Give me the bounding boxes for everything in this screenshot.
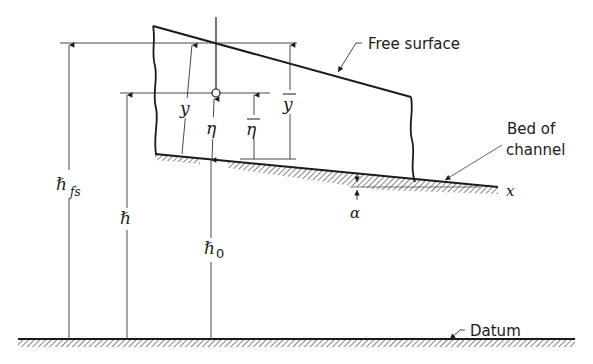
datum-line [18,339,575,347]
datum-leader [450,330,465,339]
datum-hatching [18,339,575,347]
datum-label: Datum [470,322,521,340]
bed-of-channel-label-line2: channel [506,141,565,159]
x-axis-label: x [506,182,515,200]
svg-text:ℏ: ℏ [56,174,67,194]
y-label: y [179,98,190,118]
bed-hatching-right [228,161,498,194]
free-surface-leader [338,43,362,72]
svg-text:η: η [246,119,257,139]
bed-of-channel-leader [445,145,502,180]
free-surface-label: Free surface [368,35,460,53]
centroid-marker [212,89,220,97]
h-label: ℏ [120,208,131,228]
left-section-boundary [153,26,157,154]
right-section-boundary [411,97,415,182]
svg-text:y: y [282,94,293,114]
eta-label: η [206,118,217,138]
diagram-canvas: Free surface Bed of channel Datum x α y … [0,0,593,364]
svg-text:fs: fs [69,185,81,199]
bed-of-channel-label-line1: Bed of [507,120,556,138]
svg-text:ℏ: ℏ [204,238,215,258]
channel-bed [155,154,498,194]
svg-text:0: 0 [216,246,224,261]
alpha-label: α [350,204,360,222]
